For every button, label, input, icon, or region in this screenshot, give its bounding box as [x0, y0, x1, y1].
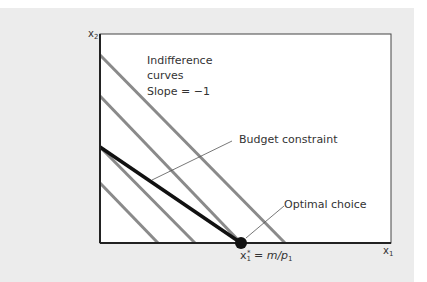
budget-constraint-label: Budget constraint — [239, 133, 337, 146]
indifference-label-line1: Indifference — [147, 54, 212, 67]
indifference-label-line2: curves — [147, 69, 184, 82]
optimum-value-label: x1* = m/p1 — [240, 249, 293, 263]
optimal-choice-label: Optimal choice — [284, 198, 367, 211]
x-axis-label: x1 — [383, 245, 393, 258]
diagram-canvas — [0, 0, 427, 282]
y-axis-label: x2 — [88, 28, 98, 41]
optimal-point — [235, 237, 247, 249]
slope-label: Slope = −1 — [147, 85, 210, 98]
